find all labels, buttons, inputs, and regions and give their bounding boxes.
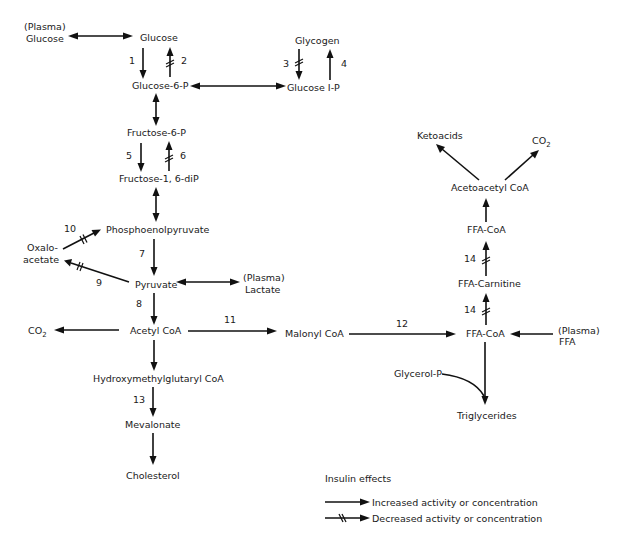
arrow-acetoacetylcoa-to-co2 (505, 150, 539, 180)
svg-text:5: 5 (126, 150, 132, 161)
node-plasma-lactate: (Plasma) Lactate (243, 272, 285, 295)
svg-text:10: 10 (64, 223, 76, 234)
legend-decreased: Decreased activity or concentration (325, 513, 542, 524)
svg-text:FFA: FFA (559, 336, 576, 347)
arrow-12-malonylcoa-to-ffacoa (349, 331, 456, 338)
arrow-1-glucose-to-g6p (140, 48, 147, 79)
node-hmg-coa: Hydroxymethylglutaryl CoA (93, 373, 224, 384)
svg-text:6: 6 (180, 150, 186, 161)
svg-text:Decreased activity or concentr: Decreased activity or concentration (372, 513, 542, 524)
node-malonyl-coa: Malonyl CoA (285, 328, 344, 339)
legend-increased: Increased activity or concentration (325, 497, 538, 508)
arrow-5-f6p-to-f16dip (138, 143, 145, 172)
node-glycerol-p: Glycerol-P (394, 368, 442, 379)
svg-text:2: 2 (181, 55, 187, 66)
arrow-14-ffacoa-to-ffacarnitine (482, 293, 490, 325)
svg-text:4: 4 (341, 58, 347, 69)
arrow-7-pep-to-pyruvate (151, 239, 158, 276)
node-glucose-6p: Glucose-6-P (132, 80, 189, 91)
node-cholesterol: Cholesterol (126, 470, 180, 481)
arrow-4-g1p-to-glycogen (327, 49, 334, 80)
node-glucose-1p: Glucose I-P (287, 82, 340, 93)
legend: Insulin effects Increased activity or co… (325, 473, 542, 524)
arrow-13-hmgcoa-to-mevalonate (150, 387, 157, 417)
svg-text:14: 14 (464, 253, 476, 264)
arrow-6-f16dip-to-f6p (165, 141, 173, 171)
svg-text:1: 1 (129, 55, 135, 66)
node-plasma-ffa: (Plasma) FFA (558, 325, 600, 347)
svg-text:12: 12 (396, 318, 408, 329)
arrow-acetoacetylcoa-to-ketoacids (436, 144, 479, 180)
node-ffa-coa: FFA-CoA (466, 328, 505, 339)
node-acetyl-coa: Acetyl CoA (130, 325, 182, 336)
svg-text:13: 13 (133, 394, 145, 405)
node-mevalonate: Mevalonate (125, 419, 181, 430)
node-glucose: Glucose (140, 32, 178, 43)
svg-text:9: 9 (96, 277, 102, 288)
node-oxaloacetate: Oxalo- acetate (23, 242, 59, 265)
node-acetoacetyl-coa: Acetoacetyl CoA (451, 182, 529, 193)
arrow-plasma-glucose-glucose (68, 33, 133, 40)
node-fructose-6p: Fructose-6-P (127, 127, 186, 138)
arrow-mevalonate-to-cholesterol (150, 433, 157, 465)
arrow-acetylcoa-to-hmgcoa (151, 340, 158, 371)
svg-text:11: 11 (224, 314, 236, 325)
svg-text:(Plasma): (Plasma) (558, 325, 600, 336)
svg-text:Increased activity or concentr: Increased activity or concentration (372, 497, 538, 508)
node-phosphoenolpyruvate: Phosphoenolpyruvate (106, 224, 209, 235)
arrow-acetylcoa-to-co2 (54, 327, 119, 334)
node-glycogen: Glycogen (295, 35, 340, 46)
arrow-14-ffacarnitine-to-ffacoa-top (482, 241, 490, 276)
node-triglycerides: Triglycerides (456, 410, 517, 421)
arrow-ffacoa-to-triglycerides (482, 342, 489, 405)
node-fructose-16dip: Fructose-1, 6-diP (119, 173, 199, 184)
arrow-g6p-g1p (190, 83, 286, 90)
svg-text:Insulin effects: Insulin effects (325, 473, 391, 484)
svg-text:7: 7 (139, 248, 145, 259)
node-plasma-glucose: (Plasma) Glucose (24, 21, 66, 44)
svg-text:3: 3 (283, 58, 289, 69)
arrow-11-acetylcoa-to-malonylcoa (188, 328, 277, 335)
arrow-f16dip-pep (153, 187, 160, 222)
node-pyruvate: Pyruvate (135, 279, 177, 290)
arrow-2-g6p-to-glucose (166, 47, 174, 77)
svg-text:(Plasma): (Plasma) (24, 21, 66, 32)
svg-text:(Plasma): (Plasma) (243, 272, 285, 283)
node-ketoacids: Ketoacids (417, 130, 463, 141)
node-co2-left: CO2 (28, 325, 47, 339)
svg-text:acetate: acetate (23, 254, 59, 265)
svg-text:8: 8 (136, 298, 142, 309)
arrow-ffacoa-to-acetoacetylcoa (483, 198, 490, 222)
node-ffa-coa-top: FFA-CoA (467, 224, 506, 235)
arrow-pyruvate-lactate (176, 279, 240, 286)
arrow-plasma-ffa-to-ffacoa (510, 331, 553, 338)
arrow-3-glycogen-to-g1p (295, 49, 303, 80)
svg-text:Glucose: Glucose (26, 33, 64, 44)
svg-text:14: 14 (464, 304, 476, 315)
svg-text:Lactate: Lactate (245, 284, 281, 295)
arrow-g6p-f6p (153, 93, 160, 126)
insulin-metabolism-diagram: (Plasma) Glucose Glucose Glucose-6-P Gly… (0, 0, 619, 536)
arrow-glycerolp-to-triglycerides (442, 374, 484, 396)
arrow-8-pyruvate-to-acetylcoa (151, 293, 158, 325)
node-co2-right: CO2 (532, 135, 551, 149)
node-ffa-carnitine: FFA-Carnitine (458, 278, 521, 289)
svg-text:Oxalo-: Oxalo- (27, 242, 58, 253)
